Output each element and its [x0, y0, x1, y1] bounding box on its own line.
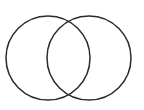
venn-diagram — [0, 0, 144, 110]
left-circle — [6, 16, 90, 100]
right-circle — [47, 16, 131, 100]
